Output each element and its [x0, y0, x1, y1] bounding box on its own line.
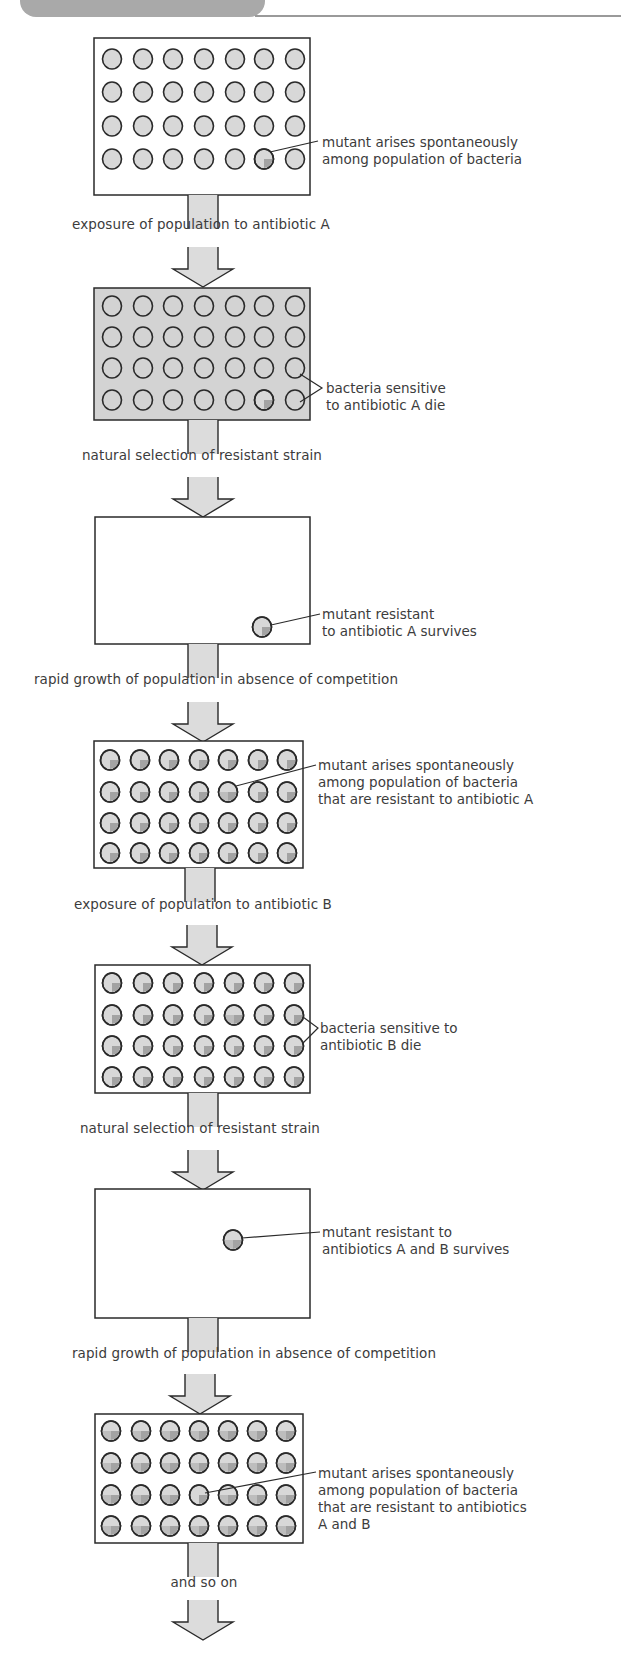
- down-arrow-icon: [172, 925, 232, 965]
- annotation-panel-2: bacteria sensitive to antibiotic A die: [326, 380, 446, 414]
- step-label-growth-1: rapid growth of population in absence of…: [34, 671, 398, 687]
- step-label-selection-1: natural selection of resistant strain: [82, 447, 322, 463]
- panel-1-population: [94, 38, 318, 195]
- down-arrow-icon: [173, 477, 233, 517]
- panel-4-population: [94, 741, 316, 868]
- final-down-arrow-icon: [173, 1600, 233, 1640]
- annotation-panel-1: mutant arises spontaneously among popula…: [322, 134, 522, 168]
- panel-2-dying: [94, 288, 322, 420]
- step-label-growth-2: rapid growth of population in absence of…: [72, 1345, 436, 1361]
- annotation-panel-5: bacteria sensitive to antibiotic B die: [320, 1020, 458, 1054]
- down-arrow-icon: [173, 702, 233, 742]
- panel-3-survivor: [95, 517, 320, 644]
- down-arrow-icon: [170, 1374, 230, 1414]
- antibiotic-resistance-flow-diagram: [0, 0, 621, 1658]
- panel-6-survivor: [95, 1189, 320, 1318]
- down-arrow-icon: [173, 1150, 233, 1190]
- step-label-selection-2: natural selection of resistant strain: [80, 1120, 320, 1136]
- panel-5-dying: [95, 965, 318, 1093]
- annotation-panel-4: mutant arises spontaneously among popula…: [318, 757, 533, 808]
- annotation-panel-7: mutant arises spontaneously among popula…: [318, 1465, 527, 1533]
- panel-7-population: [95, 1414, 316, 1543]
- annotation-panel-3: mutant resistant to antibiotic A survive…: [322, 606, 477, 640]
- step-label-exposure-b: exposure of population to antibiotic B: [74, 896, 332, 912]
- down-arrow-icon: [173, 247, 233, 287]
- annotation-panel-6: mutant resistant to antibiotics A and B …: [322, 1224, 509, 1258]
- step-label-and-so-on: and so on: [171, 1574, 238, 1590]
- step-label-exposure-a: exposure of population to antibiotic A: [72, 216, 330, 232]
